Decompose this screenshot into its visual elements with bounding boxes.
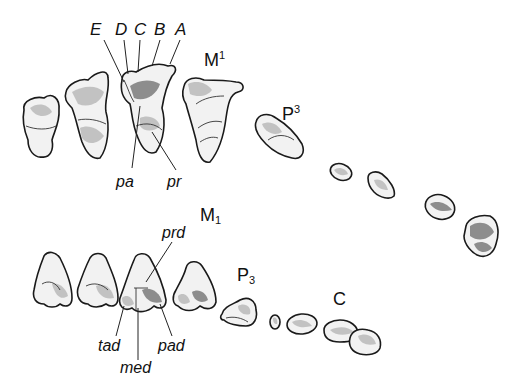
lower-tooth-1 [33,252,72,307]
upper-small-tooth-2 [368,172,394,198]
part-label-prd: prd [162,225,185,241]
upper-molar-label: M1 [204,50,225,69]
cusp-label-e: E [90,21,101,38]
part-label-pad: pad [158,338,185,354]
upper-tooth-3-first-molar-detail [121,64,175,153]
lower-tooth-4 [173,262,216,311]
lower-small-tooth [270,315,280,329]
lower-premolar-letter: P [237,265,249,285]
lower-incisor [349,329,380,354]
lower-molar-label: M1 [200,206,221,226]
dental-diagram: E D C B A M1 P3 pa pr M1 P3 C prd tad me… [0,0,516,391]
lower-canine-label: C [333,290,346,308]
lower-tooth-2 [77,254,118,308]
teeth-illustration [0,0,516,391]
upper-premolar-letter: P [282,104,294,124]
upper-small-tooth-1 [328,161,354,184]
upper-tooth-1 [23,96,59,157]
upper-canine [464,215,498,256]
lower-molar-index: 1 [215,214,221,226]
cusp-label-d: D [115,21,127,38]
upper-molar-index: 1 [219,49,225,61]
upper-premolar-index: 3 [294,103,300,115]
upper-first-molar-M1 [183,78,243,162]
part-label-pa: pa [116,174,134,190]
upper-small-tooth-3 [422,191,458,224]
part-label-pr: pr [167,174,181,190]
upper-premolar-label: P3 [282,104,300,123]
lower-third-premolar-P3 [221,298,257,326]
part-label-tad: tad [98,338,120,354]
lower-premolar-2 [286,313,318,336]
upper-tooth-2 [65,72,108,158]
part-label-med: med [120,360,151,376]
cusp-label-b: B [154,21,165,38]
cusp-label-c: C [134,21,146,38]
cusp-label-a: A [175,21,186,38]
upper-molar-letter: M [204,50,219,70]
lower-premolar-index: 3 [249,274,255,286]
lower-molar-letter: M [200,205,215,225]
lower-premolar-label: P3 [237,266,255,286]
